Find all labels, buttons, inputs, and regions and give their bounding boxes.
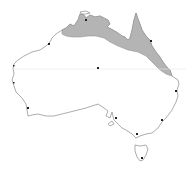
map-container bbox=[0, 0, 193, 173]
city-marker-darwin bbox=[85, 19, 87, 21]
city-marker-geraldton bbox=[13, 82, 15, 84]
city-marker-carnarvon bbox=[13, 65, 15, 67]
city-marker-alice-springs bbox=[97, 67, 99, 69]
city-marker-brisbane bbox=[175, 90, 177, 92]
city-marker-adelaide bbox=[115, 117, 117, 119]
city-marker-hobart bbox=[141, 157, 143, 159]
tiwi-islands bbox=[80, 11, 90, 14]
city-marker-cairns bbox=[150, 40, 152, 42]
city-marker-broome bbox=[48, 43, 50, 45]
city-marker-melbourne bbox=[136, 133, 138, 135]
city-marker-sydney bbox=[161, 119, 163, 121]
spencer-gulf bbox=[108, 121, 114, 126]
australia-map bbox=[0, 0, 193, 173]
city-marker-perth bbox=[27, 107, 29, 109]
